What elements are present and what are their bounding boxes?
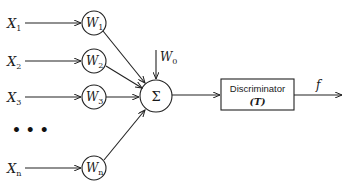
- bias-input: W0: [156, 50, 177, 79]
- svg-text:W1: W1: [86, 16, 103, 32]
- svg-text:W3: W3: [86, 90, 103, 106]
- svg-text:X1: X1: [6, 16, 21, 33]
- svg-text:X3: X3: [6, 90, 21, 107]
- weight-arrow-1: [103, 31, 145, 83]
- output-label: f: [315, 78, 323, 92]
- input-node-1: X1 W1: [6, 11, 145, 83]
- sigma-symbol: Σ: [151, 89, 160, 104]
- perceptron-diagram: X1 W1 X2 W2 X3 W3 • • • Xn Wn W0 Σ: [0, 0, 351, 188]
- svg-text:W2: W2: [86, 54, 103, 70]
- svg-text:Xn: Xn: [6, 161, 21, 178]
- svg-text:Wn: Wn: [86, 161, 104, 177]
- weight-arrow-n: [104, 110, 145, 160]
- ellipsis: • • •: [12, 122, 49, 138]
- input-node-3: X3 W3: [6, 85, 139, 109]
- discriminator-label: Discriminator: [230, 83, 285, 94]
- svg-text:W0: W0: [160, 50, 177, 66]
- input-node-n: Xn Wn: [6, 110, 145, 180]
- svg-text:X2: X2: [6, 54, 21, 71]
- discriminator-param: (T): [249, 96, 265, 107]
- weight-arrow-2: [106, 66, 142, 88]
